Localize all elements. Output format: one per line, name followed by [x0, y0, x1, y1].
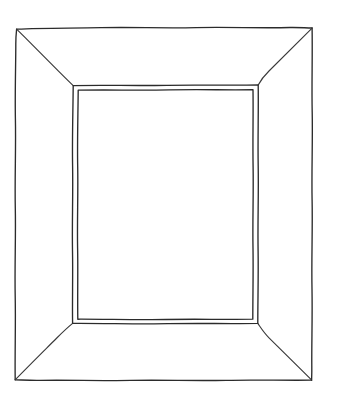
- outer-edge-bottom: [15, 380, 311, 381]
- drawing-canvas: [0, 0, 337, 404]
- picture-frame-sketch: [0, 0, 337, 404]
- outer-edge-right: [312, 28, 313, 380]
- aperture: [78, 90, 253, 319]
